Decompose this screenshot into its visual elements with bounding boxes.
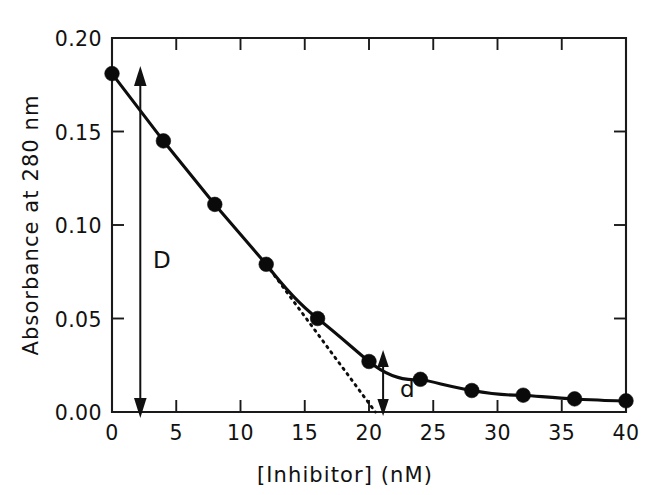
- data-point: [465, 383, 480, 398]
- y-tick-label: 0.00: [55, 401, 102, 425]
- figure-container: D d 0.20 0.15 0.10 0.05 0.00 0 5 10 15 2…: [0, 0, 656, 495]
- y-axis-title: Absorbance at 280 nm: [19, 94, 43, 355]
- data-point: [516, 388, 531, 403]
- data-point: [619, 394, 634, 409]
- y-tick-label: 0.10: [55, 214, 102, 238]
- x-tick-label: 20: [356, 421, 383, 445]
- y-tick-label: 0.20: [55, 27, 102, 51]
- data-point: [208, 197, 223, 212]
- annotation-label-D: D: [153, 247, 171, 273]
- x-tick-label: 0: [105, 421, 118, 445]
- data-point: [362, 354, 377, 369]
- data-point: [567, 392, 582, 407]
- annotation-label-d: d: [400, 376, 415, 402]
- data-point: [156, 134, 171, 149]
- x-tick-label: 10: [227, 421, 254, 445]
- data-point: [413, 372, 428, 387]
- x-tick-label: 30: [484, 421, 511, 445]
- data-point: [310, 311, 325, 326]
- absorbance-vs-inhibitor-chart: D d 0.20 0.15 0.10 0.05 0.00 0 5 10 15 2…: [0, 0, 656, 495]
- data-point: [105, 66, 120, 81]
- x-tick-label: 15: [291, 421, 318, 445]
- y-tick-label: 0.05: [55, 308, 102, 332]
- data-point: [259, 257, 274, 272]
- y-tick-label: 0.15: [55, 121, 102, 145]
- x-tick-label: 40: [613, 421, 640, 445]
- x-tick-label: 5: [170, 421, 183, 445]
- x-tick-label: 35: [548, 421, 575, 445]
- x-axis-title: [Inhibitor] (nM): [257, 463, 433, 487]
- x-tick-label: 25: [420, 421, 447, 445]
